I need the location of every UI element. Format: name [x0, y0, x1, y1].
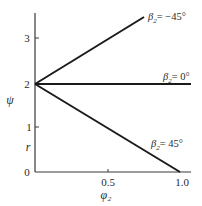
y-tick-label-1: 1: [26, 121, 32, 133]
y-axis-label-psi: ψ: [6, 93, 14, 107]
y-tick-label-3: 3: [24, 32, 30, 44]
x-tick-label-0.5: 0.5: [101, 176, 115, 188]
annotation-beta2-minus45: β2= −45°: [147, 11, 186, 25]
x-axis-label-phi2: φ₂: [101, 188, 112, 202]
annotation-beta2-0: β2= 0°: [162, 71, 190, 85]
chart: 3 2 1 0 0.5 1.0 ψ r φ₂ β2= −45° β2= 0° β…: [0, 0, 202, 206]
annotation-beta2-45: β2= 45°: [150, 138, 183, 152]
series-line-beta2-45: [35, 84, 180, 172]
x-tick-label-1.0: 1.0: [175, 176, 189, 188]
y-tick-label-2: 2: [24, 78, 30, 90]
series-line-beta2-minus45: [35, 17, 144, 84]
y-axis-label-r: r: [26, 140, 31, 154]
y-tick-label-0: 0: [24, 166, 30, 178]
